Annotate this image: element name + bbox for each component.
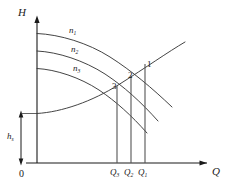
- pump-curve-n1: [37, 34, 172, 108]
- curve-letter: n: [73, 63, 78, 73]
- head-axis-label: H: [18, 7, 26, 18]
- tick-letter: Q: [124, 167, 131, 177]
- tick-subscript: 2: [131, 172, 134, 178]
- tick-label-q2: Q2: [124, 168, 133, 177]
- operating-point-1-label: 1: [147, 60, 152, 69]
- pump-curve-n1-label: n1: [69, 26, 76, 35]
- curve-letter: n: [69, 25, 74, 35]
- curve-subscript: 3: [78, 68, 81, 74]
- static-head-subscript: s: [12, 136, 14, 142]
- flow-axis-label: Q: [212, 166, 220, 177]
- curve-subscript: 1: [74, 30, 77, 36]
- static-head-arrow: [19, 111, 37, 166]
- static-head-letter: h: [7, 131, 12, 141]
- origin-label: 0: [19, 169, 24, 179]
- head-axis: [34, 16, 39, 164]
- flow-axis-arrowhead: [200, 160, 208, 165]
- tick-letter: Q: [110, 167, 117, 177]
- pump-curve-n3-label: n3: [73, 64, 80, 73]
- pump-curve-n2: [37, 51, 158, 121]
- curve-subscript: 2: [76, 49, 79, 55]
- figure-canvas: [0, 0, 246, 195]
- pump-characteristic-figure: H Q 0 hs n1 n2 n3 1 2 3 Q3 Q2 Q1: [0, 0, 246, 195]
- tick-letter: Q: [138, 167, 145, 177]
- pump-curve-n2-label: n2: [71, 45, 78, 54]
- operating-point-3-label: 3: [112, 82, 117, 91]
- curve-letter: n: [71, 44, 76, 54]
- operating-point-2-label: 2: [128, 71, 133, 80]
- tick-subscript: 1: [145, 172, 148, 178]
- tick-subscript: 3: [117, 172, 120, 178]
- tick-label-q1: Q1: [138, 168, 147, 177]
- tick-label-q3: Q3: [110, 168, 119, 177]
- static-head-label: hs: [7, 132, 14, 141]
- head-axis-arrowhead: [34, 16, 39, 24]
